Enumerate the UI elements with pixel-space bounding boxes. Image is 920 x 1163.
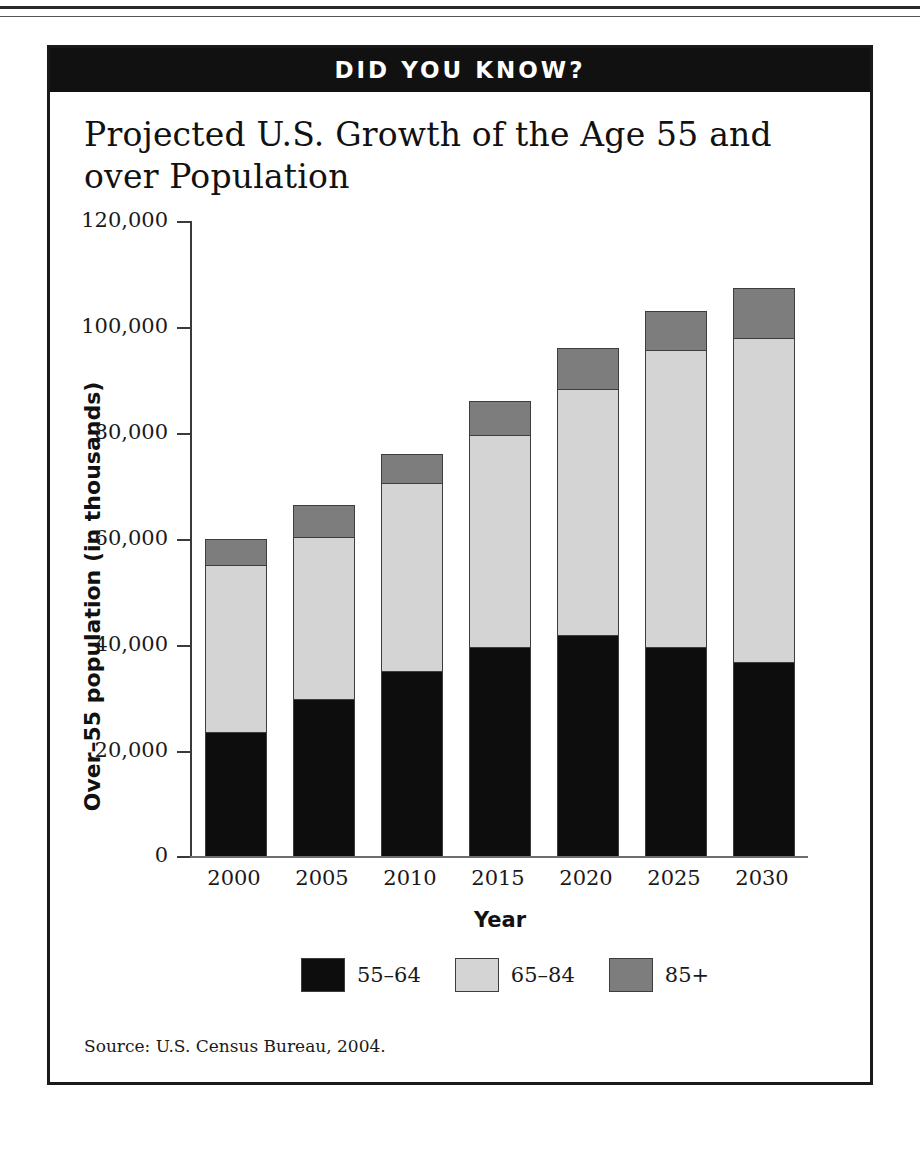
bar-segment-5564[interactable] bbox=[557, 635, 619, 856]
bar-segment-85+[interactable] bbox=[381, 454, 443, 483]
legend-swatch-icon bbox=[609, 958, 653, 992]
y-tick: 60,000 bbox=[177, 539, 190, 541]
did-you-know-box: DID YOU KNOW? Projected U.S. Growth of t… bbox=[47, 45, 873, 1085]
y-tick-label: 20,000 bbox=[95, 738, 168, 762]
bar-segment-85+[interactable] bbox=[733, 288, 795, 338]
y-tick: 120,000 bbox=[177, 221, 190, 223]
y-tick: 0 bbox=[177, 856, 190, 858]
source-note: Source: U.S. Census Bureau, 2004. bbox=[84, 1036, 386, 1056]
y-tick: 20,000 bbox=[177, 751, 190, 753]
x-axis-title: Year bbox=[190, 908, 810, 932]
bar-segment-5564[interactable] bbox=[205, 732, 267, 856]
y-tick-label: 80,000 bbox=[95, 420, 168, 444]
banner-label: DID YOU KNOW? bbox=[334, 57, 585, 83]
bar-segment-5564[interactable] bbox=[645, 647, 707, 857]
y-tick-label: 40,000 bbox=[95, 632, 168, 656]
y-tick: 40,000 bbox=[177, 645, 190, 647]
legend-item[interactable]: 55–64 bbox=[301, 958, 421, 992]
bar-segment-6584[interactable] bbox=[557, 389, 619, 635]
bar-segment-6584[interactable] bbox=[469, 435, 531, 648]
legend-label: 85+ bbox=[665, 963, 709, 987]
legend-label: 55–64 bbox=[357, 963, 421, 987]
bar-2000[interactable] bbox=[205, 539, 267, 856]
did-you-know-banner: DID YOU KNOW? bbox=[50, 48, 870, 92]
bar-segment-85+[interactable] bbox=[469, 401, 531, 434]
plot-area: 020,00040,00060,00080,000100,000120,000 … bbox=[190, 216, 810, 864]
bar-2020[interactable] bbox=[557, 348, 619, 856]
bar-2010[interactable] bbox=[381, 454, 443, 856]
bar-2025[interactable] bbox=[645, 311, 707, 856]
bar-segment-5564[interactable] bbox=[381, 671, 443, 856]
bar-segment-85+[interactable] bbox=[557, 348, 619, 389]
y-tick: 80,000 bbox=[177, 433, 190, 435]
page-top-rule-thin bbox=[0, 16, 920, 17]
bar-segment-6584[interactable] bbox=[733, 338, 795, 662]
y-tick-label: 100,000 bbox=[81, 314, 168, 338]
bar-2030[interactable] bbox=[733, 288, 795, 857]
page-title: Projected U.S. Growth of the Age 55 and … bbox=[84, 114, 836, 198]
legend-swatch-icon bbox=[301, 958, 345, 992]
chart-legend: 55–6465–8485+ bbox=[200, 958, 810, 992]
bar-2005[interactable] bbox=[293, 505, 355, 857]
y-tick-label: 0 bbox=[155, 843, 168, 867]
bar-segment-6584[interactable] bbox=[293, 537, 355, 699]
bar-2015[interactable] bbox=[469, 401, 531, 856]
y-tick-label: 60,000 bbox=[95, 526, 168, 550]
bar-segment-5564[interactable] bbox=[469, 647, 531, 856]
legend-label: 65–84 bbox=[511, 963, 575, 987]
legend-swatch-icon bbox=[455, 958, 499, 992]
bar-group bbox=[192, 216, 808, 856]
bar-segment-85+[interactable] bbox=[205, 539, 267, 565]
page-top-rule bbox=[0, 6, 920, 9]
y-tick-label: 120,000 bbox=[81, 208, 168, 232]
bar-segment-6584[interactable] bbox=[205, 565, 267, 732]
bar-segment-85+[interactable] bbox=[645, 311, 707, 349]
legend-item[interactable]: 85+ bbox=[609, 958, 709, 992]
x-axis-line bbox=[190, 856, 808, 858]
page-canvas: DID YOU KNOW? Projected U.S. Growth of t… bbox=[0, 0, 920, 1163]
bar-segment-5564[interactable] bbox=[293, 699, 355, 856]
chart-container: Over–55 population (in thousands) 020,00… bbox=[50, 216, 870, 1016]
x-tick-label: 2030 bbox=[707, 866, 817, 890]
bar-segment-6584[interactable] bbox=[381, 483, 443, 671]
bar-segment-6584[interactable] bbox=[645, 350, 707, 647]
bar-segment-85+[interactable] bbox=[293, 505, 355, 538]
bar-segment-5564[interactable] bbox=[733, 662, 795, 857]
legend-item[interactable]: 65–84 bbox=[455, 958, 575, 992]
y-tick: 100,000 bbox=[177, 327, 190, 329]
